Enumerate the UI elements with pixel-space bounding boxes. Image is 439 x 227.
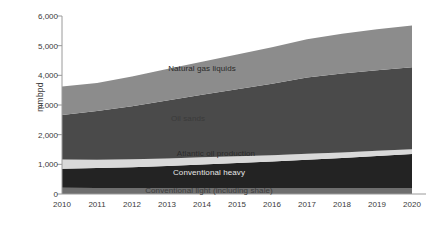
x-axis-tick-label: 2013 <box>158 200 176 209</box>
stacked-area-chart: mmbpd 01,0002,0003,0004,0005,0006,000 20… <box>0 0 439 227</box>
y-axis-tick-label: 0 <box>18 190 58 199</box>
y-axis-tick-labels: 01,0002,0003,0004,0005,0006,000 <box>14 0 58 227</box>
area-series <box>62 188 412 194</box>
x-axis-tick-label: 2015 <box>228 200 246 209</box>
x-axis-tick-label: 2020 <box>403 200 421 209</box>
y-axis-tick-label: 2,000 <box>18 130 58 139</box>
y-axis-tick-label: 3,000 <box>18 101 58 110</box>
x-axis-tick-label: 2019 <box>368 200 386 209</box>
x-axis-tick-label: 2011 <box>88 200 105 209</box>
x-axis-tick-label: 2010 <box>53 200 71 209</box>
x-axis-tick-label: 2017 <box>298 200 316 209</box>
plot-area <box>0 0 439 227</box>
x-axis-tick-label: 2012 <box>123 200 141 209</box>
y-axis-tick-label: 1,000 <box>18 160 58 169</box>
x-axis-tick-label: 2014 <box>193 200 211 209</box>
y-axis-tick-label: 6,000 <box>18 12 58 21</box>
y-axis-tick-label: 5,000 <box>18 41 58 50</box>
x-axis-tick-label: 2018 <box>333 200 351 209</box>
y-axis-tick-label: 4,000 <box>18 71 58 80</box>
x-axis-tick-label: 2016 <box>263 200 281 209</box>
